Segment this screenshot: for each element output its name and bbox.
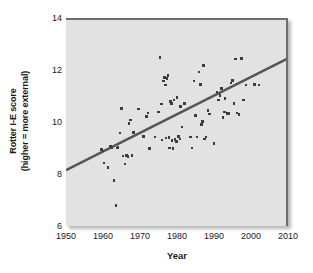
- data-point: [205, 136, 208, 139]
- data-point: [173, 99, 176, 102]
- data-point: [200, 123, 203, 126]
- data-point: [201, 120, 204, 123]
- data-point: [120, 107, 123, 110]
- data-point: [132, 131, 135, 134]
- x-axis-tick-labels: 1950196019701980199020002010: [0, 231, 313, 247]
- data-point: [111, 147, 114, 150]
- data-point: [168, 147, 171, 150]
- data-point: [115, 204, 118, 207]
- y-tick-label: 12: [20, 65, 62, 75]
- y-tick-label: 10: [20, 117, 62, 127]
- data-point: [162, 80, 165, 83]
- plot-top-border: [66, 18, 288, 20]
- scatter-plot-figure: Rotter I-E score (higher = more external…: [0, 0, 313, 273]
- data-point: [234, 58, 237, 61]
- data-point: [137, 108, 140, 111]
- data-point: [242, 99, 245, 102]
- data-point: [166, 77, 169, 80]
- x-tick-label: 2010: [268, 231, 308, 241]
- data-point: [189, 136, 192, 139]
- data-point: [193, 80, 196, 83]
- data-point: [122, 155, 125, 158]
- data-point: [191, 147, 194, 150]
- data-point: [160, 103, 163, 106]
- data-point: [196, 136, 199, 139]
- x-tick-label: 1970: [120, 231, 160, 241]
- data-point: [154, 136, 157, 139]
- data-point: [159, 56, 162, 59]
- data-point: [198, 71, 201, 74]
- x-tick-label: 1980: [157, 231, 197, 241]
- data-point: [179, 105, 182, 108]
- data-point: [217, 99, 220, 102]
- y-tick-label: 8: [20, 169, 62, 179]
- x-tick-label: 1990: [194, 231, 234, 241]
- data-point: [172, 147, 175, 150]
- x-tick-label: 1950: [46, 231, 86, 241]
- trend-line: [66, 18, 288, 226]
- data-point: [231, 79, 234, 82]
- data-point: [253, 83, 256, 86]
- y-tick-label: 14: [20, 13, 62, 23]
- data-point: [233, 102, 236, 105]
- data-point: [147, 112, 150, 115]
- data-point: [113, 179, 116, 182]
- y-axis-tick-labels: 68101214: [18, 0, 62, 250]
- data-point: [142, 135, 145, 138]
- data-point: [170, 102, 173, 105]
- data-point: [168, 136, 171, 139]
- data-point: [220, 87, 223, 90]
- data-point: [107, 166, 110, 169]
- data-point: [102, 150, 105, 153]
- data-point: [207, 109, 210, 112]
- data-point: [194, 114, 197, 117]
- data-point: [224, 97, 227, 100]
- data-point: [124, 163, 127, 166]
- x-tick-label: 1960: [83, 231, 123, 241]
- data-point: [157, 111, 160, 114]
- data-point: [219, 94, 222, 97]
- data-point: [240, 57, 243, 60]
- data-point: [129, 119, 132, 122]
- data-point: [119, 132, 122, 135]
- data-point: [164, 84, 167, 87]
- data-point: [199, 83, 202, 86]
- data-point: [175, 140, 178, 143]
- data-point: [181, 126, 184, 129]
- data-point: [145, 115, 148, 118]
- data-point: [128, 122, 131, 125]
- data-point: [230, 82, 233, 85]
- y-tick-label: 6: [20, 221, 62, 231]
- data-point: [161, 139, 164, 142]
- data-point: [117, 146, 120, 149]
- data-point: [245, 84, 248, 87]
- plot-right-border: [286, 18, 288, 226]
- data-point: [202, 64, 205, 67]
- data-point: [222, 116, 225, 119]
- data-point: [183, 102, 186, 105]
- data-point: [228, 112, 231, 115]
- x-tick-label: 2000: [231, 231, 271, 241]
- data-point: [127, 155, 130, 158]
- x-axis-label: Year: [66, 250, 288, 261]
- data-point: [176, 96, 179, 99]
- data-point: [216, 91, 219, 94]
- data-point: [258, 84, 261, 87]
- data-point: [208, 113, 211, 116]
- data-point: [167, 74, 170, 77]
- data-point: [103, 162, 106, 165]
- data-point: [213, 142, 216, 145]
- data-point: [238, 113, 241, 116]
- data-point: [148, 147, 151, 150]
- plot-area: [66, 18, 288, 226]
- data-point: [179, 138, 182, 141]
- data-point: [131, 154, 134, 157]
